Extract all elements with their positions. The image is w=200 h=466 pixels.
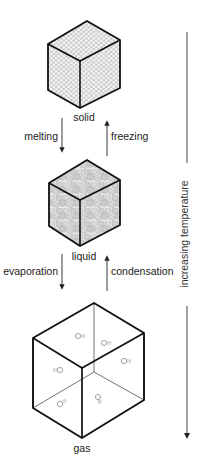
solid-cube: [48, 21, 120, 108]
temperature-axis-label: increasing temperature: [178, 180, 190, 288]
solid-label: solid: [73, 111, 95, 123]
liquid-label: liquid: [72, 250, 97, 262]
states-of-matter-diagram: solid melting freezing liquid evaporatio…: [0, 0, 200, 466]
freezing-label: freezing: [111, 130, 149, 142]
gas-particles: [53, 333, 130, 407]
liquid-cube: [49, 160, 120, 246]
gas-label: gas: [74, 442, 91, 454]
condensation-label: condensation: [111, 265, 174, 277]
gas-cube: [33, 303, 144, 438]
evaporation-label: evaporation: [3, 265, 58, 277]
melting-label: melting: [24, 130, 58, 142]
